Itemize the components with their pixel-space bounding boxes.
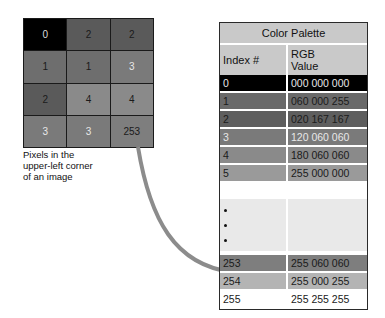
- palette-row: 255255 255 255: [220, 291, 367, 307]
- palette-index: 4: [220, 147, 286, 163]
- ellipsis-rows: [220, 199, 367, 251]
- palette-rgb-value: 255 000 255: [288, 273, 367, 289]
- palette-rgb-value: 255 255 255: [288, 291, 367, 307]
- palette-index: 1: [220, 93, 286, 109]
- header-rgb-label-1: RGB: [291, 48, 367, 60]
- palette-index: 5: [220, 165, 286, 181]
- palette-index: 253: [220, 255, 286, 271]
- palette-index: 0: [220, 75, 286, 91]
- palette-title: Color Palette: [220, 23, 367, 45]
- palette-row: 0000 000 000: [220, 75, 367, 91]
- palette-row: 5255 000 000: [220, 165, 367, 181]
- palette-row: 3120 060 060: [220, 129, 367, 145]
- palette-index: 255: [220, 291, 286, 307]
- palette-row: 254255 000 255: [220, 273, 367, 289]
- palette-index: 2: [220, 111, 286, 127]
- palette-index: 254: [220, 273, 286, 289]
- palette-rgb-value: 180 060 060: [288, 147, 367, 163]
- palette-rgb-value: 120 060 060: [288, 129, 367, 145]
- palette-row: 253255 060 060: [220, 255, 367, 271]
- palette-rgb-value: 000 000 000: [288, 75, 367, 91]
- palette-rgb-value: 060 000 255: [288, 93, 367, 109]
- color-palette-table: Color Palette Index # RGB Value 0000 000…: [219, 22, 368, 310]
- palette-rgb-value: 020 167 167: [288, 111, 367, 127]
- palette-rgb-value: 255 060 060: [288, 255, 367, 271]
- palette-row: 2020 167 167: [220, 111, 367, 127]
- header-index: Index #: [220, 45, 286, 75]
- header-rgb-label-2: Value: [291, 60, 367, 72]
- palette-row: 4180 060 060: [220, 147, 367, 163]
- palette-row: 1060 000 255: [220, 93, 367, 109]
- header-rgb: RGB Value: [288, 45, 367, 75]
- palette-index: 3: [220, 129, 286, 145]
- header-index-label: Index #: [223, 54, 259, 66]
- palette-rgb-value: 255 000 000: [288, 165, 367, 181]
